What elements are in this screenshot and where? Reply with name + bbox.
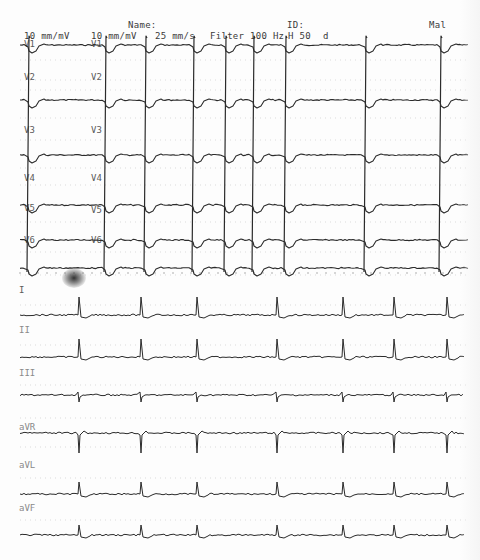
ink-smudge xyxy=(62,268,86,288)
paper-edge xyxy=(460,0,480,560)
limb-lead-traces xyxy=(20,297,464,538)
precordial-traces xyxy=(20,36,468,276)
ecg-printout: Name: ID: Mal 10 mm/mV 10 mm/mV 25 mm/s … xyxy=(0,0,480,560)
dotted-grid xyxy=(20,60,470,520)
